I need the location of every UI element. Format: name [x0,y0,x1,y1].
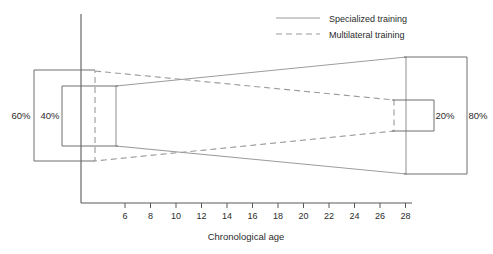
axes [81,14,412,203]
x-tick-label-24: 24 [349,211,359,221]
x-axis-tick-marks [125,203,406,208]
chart-container: Specialized training Multilateral traini… [0,0,493,254]
bracket-label-60-percent: 60% [11,110,31,121]
x-tick-label-18: 18 [273,211,283,221]
x-tick-label-6: 6 [122,211,127,221]
multilateral-training-band [95,71,394,161]
x-tick-label-22: 22 [324,211,334,221]
series-specialized-training [116,57,406,174]
bracket-right-20: 20% [392,100,455,131]
x-tick-label-16: 16 [247,211,257,221]
bracket-left-40: 40% [40,86,118,146]
chart-legend: Specialized training Multilateral traini… [276,14,407,40]
x-tick-label-8: 8 [148,211,153,221]
bracket-label-40-percent: 40% [40,110,60,121]
series-multilateral-training [95,71,394,161]
x-tick-label-28: 28 [400,211,410,221]
training-proportions-chart: Specialized training Multilateral traini… [0,0,493,254]
x-axis-tick-labels: 6 8 10 12 14 16 18 20 22 24 26 28 [122,211,410,221]
x-axis-title: Chronological age [208,231,285,242]
x-tick-label-14: 14 [222,211,232,221]
bracket-label-80-percent: 80% [468,110,488,121]
bracket-label-20-percent: 20% [435,110,455,121]
x-tick-label-26: 26 [375,211,385,221]
legend-label-specialized-training: Specialized training [329,14,407,24]
x-tick-label-20: 20 [298,211,308,221]
specialized-training-band [116,57,406,174]
x-tick-label-12: 12 [196,211,206,221]
legend-label-multilateral-training: Multilateral training [329,30,405,40]
x-tick-label-10: 10 [171,211,181,221]
